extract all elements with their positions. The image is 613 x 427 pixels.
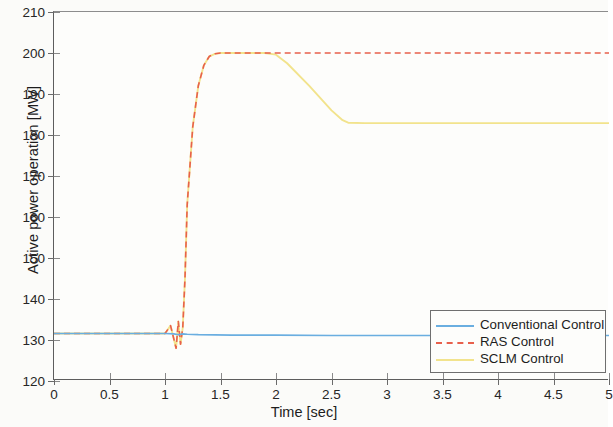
x-tick-label: 5: [605, 387, 613, 402]
y-tick-label: 210: [22, 5, 45, 20]
x-tick-label: 2: [272, 387, 280, 402]
legend-item-label: RAS Control: [480, 334, 554, 349]
y-tick-label: 180: [22, 128, 45, 143]
y-tick-label: 120: [22, 374, 45, 389]
y-tick-label: 140: [22, 292, 45, 307]
legend-line-swatch: [436, 353, 474, 365]
y-tick-label: 160: [22, 210, 45, 225]
legend-item[interactable]: SCLM Control: [431, 350, 605, 367]
series-line-sclm-control: [54, 53, 609, 348]
y-tick-label: 170: [22, 169, 45, 184]
y-tick-label: 150: [22, 251, 45, 266]
x-tick-label: 0.5: [100, 387, 119, 402]
x-tick-label: 4.5: [544, 387, 563, 402]
x-axis-label: Time [sec]: [0, 404, 608, 420]
chart-legend: Conventional ControlRAS ControlSCLM Cont…: [430, 310, 606, 373]
x-tick-label: 1.5: [211, 387, 230, 402]
legend-item[interactable]: RAS Control: [431, 333, 605, 350]
series-line-ras-control: [54, 53, 609, 348]
legend-line-swatch: [436, 336, 474, 348]
x-tick-label: 3.5: [433, 387, 452, 402]
legend-line-swatch: [436, 319, 474, 331]
x-tick-mark: [609, 379, 610, 385]
x-tick-label: 2.5: [322, 387, 341, 402]
x-tick-mark-inner: [609, 373, 610, 379]
legend-item-label: SCLM Control: [480, 351, 564, 366]
legend-item[interactable]: Conventional Control: [431, 316, 605, 333]
x-tick-label: 3: [383, 387, 391, 402]
legend-item-label: Conventional Control: [480, 317, 604, 332]
x-tick-label: 1: [161, 387, 169, 402]
y-tick-label: 200: [22, 46, 45, 61]
x-tick-label: 4: [494, 387, 502, 402]
x-tick-label: 0: [50, 387, 58, 402]
y-tick-label: 190: [22, 87, 45, 102]
y-tick-label: 130: [22, 333, 45, 348]
